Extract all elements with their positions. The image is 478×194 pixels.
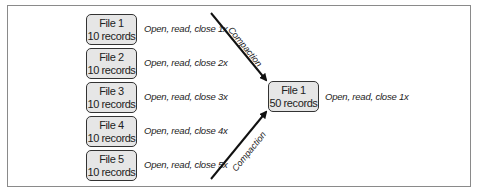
compacted-file: File 1 50 records [268, 81, 319, 112]
file-name: File 1 [269, 84, 318, 97]
compacted-file-note: Open, read, close 1x [325, 91, 409, 102]
file-records: 50 records [269, 97, 318, 110]
